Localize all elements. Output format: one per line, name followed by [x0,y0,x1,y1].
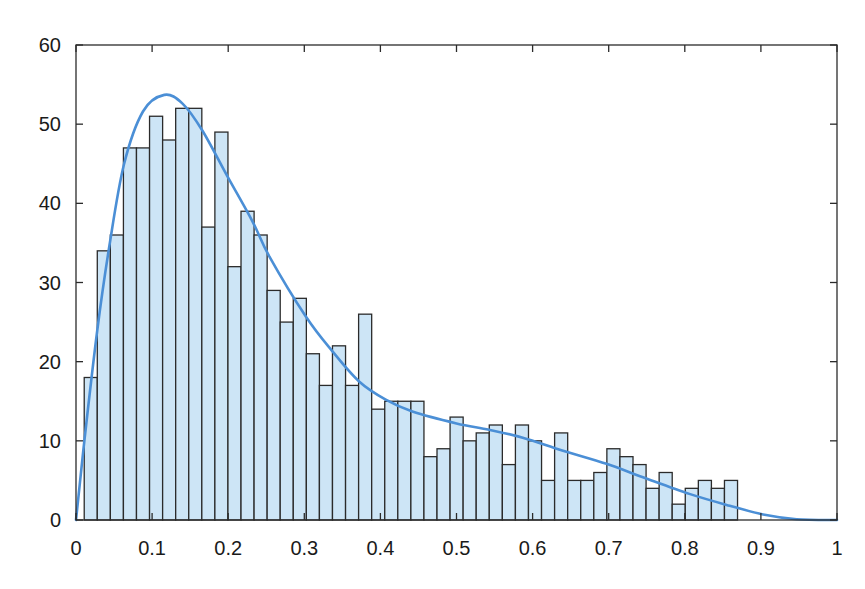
y-tick-label: 50 [39,113,61,135]
histogram-bar [241,211,254,520]
x-tick-label: 0.4 [366,537,394,559]
histogram-bar [189,108,202,520]
histogram-bar [594,473,607,521]
histogram-bar [555,433,568,520]
x-tick-label: 0.9 [747,537,775,559]
histogram-bar [215,132,228,520]
histogram-bar [306,354,319,520]
y-tick-label: 20 [39,351,61,373]
y-axis-tick-labels: 0102030405060 [39,34,61,531]
histogram-bar [202,227,215,520]
histogram-bar [476,433,489,520]
histogram-bar [568,480,581,520]
x-tick-label: 0.8 [671,537,699,559]
histogram-bar [411,401,424,520]
histogram-bar [163,140,176,520]
histogram-bar [424,457,437,520]
histogram-bar [672,504,685,520]
histogram-bar [176,108,189,520]
histogram-bar [437,449,450,520]
histogram-bar [228,267,241,520]
histogram-bar [620,457,633,520]
histogram-bar [542,480,555,520]
histogram-bar [123,148,136,520]
histogram-bar [136,148,149,520]
y-tick-label: 0 [50,509,61,531]
histogram-bar [463,441,476,520]
y-tick-label: 10 [39,430,61,452]
histogram-bar [528,441,541,520]
histogram-bar [254,235,267,520]
x-axis-tick-labels: 00.10.20.30.40.50.60.70.80.91 [70,537,842,559]
histogram-bar [607,449,620,520]
histogram-bar [319,385,332,520]
histogram-bar [110,235,123,520]
histogram-bar [398,401,411,520]
histogram-bar [724,480,737,520]
histogram-bar [489,425,502,520]
histogram-bar [346,385,359,520]
histogram-bar [84,378,97,521]
histogram-bar [267,290,280,520]
x-tick-label: 0.5 [443,537,471,559]
histogram-bar [332,346,345,520]
x-tick-label: 0.1 [138,537,166,559]
x-tick-label: 1 [831,537,842,559]
histogram-bar [280,322,293,520]
histogram-bar [633,465,646,520]
histogram-chart: 00.10.20.30.40.50.60.70.80.91 0102030405… [0,0,865,589]
histogram-bar [293,298,306,520]
histogram-bar [646,488,659,520]
histogram-bars [84,108,737,520]
histogram-bar [385,401,398,520]
histogram-bar [150,116,163,520]
histogram-bar [372,409,385,520]
histogram-bar [659,473,672,521]
x-tick-label: 0 [70,537,81,559]
y-tick-label: 30 [39,272,61,294]
y-tick-label: 40 [39,192,61,214]
histogram-bar [581,480,594,520]
histogram-bar [450,417,463,520]
x-tick-label: 0.3 [290,537,318,559]
histogram-bar [359,314,372,520]
histogram-bar [502,465,515,520]
x-tick-label: 0.2 [214,537,242,559]
x-tick-label: 0.6 [519,537,547,559]
x-tick-label: 0.7 [595,537,623,559]
y-tick-label: 60 [39,34,61,56]
